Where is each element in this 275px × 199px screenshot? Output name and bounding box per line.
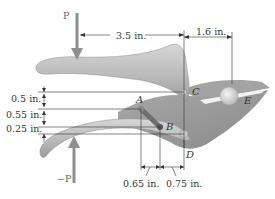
pruning-shears-diagram: P −P 3.5 in. 1.6 in. 0.5 in. 0.55 in. 0.… [0,0,275,199]
upper-handle [36,44,189,102]
force-arrow-p [71,13,83,60]
dim-0-5-in: 0.5 in. [11,94,41,104]
dim-0-55-in: 0.55 in. [6,110,42,120]
dim-0-75-in: 0.75 in. [166,179,202,189]
dim-3-5-in: 3.5 in. [116,31,146,41]
dim-0-65-in: 0.65 in. [123,179,159,189]
point-label-d: D [186,150,194,160]
dim-1-6-in: 1.6 in. [196,27,226,37]
point-label-e: E [244,96,251,106]
point-label-c: C [192,87,200,97]
force-label-minus-p: −P [57,174,71,184]
force-label-p: P [63,11,69,21]
dim-0-25-in: 0.25 in. [6,124,42,134]
joint-e [220,87,238,105]
point-label-a: A [136,95,143,105]
point-label-b: B [166,122,173,132]
